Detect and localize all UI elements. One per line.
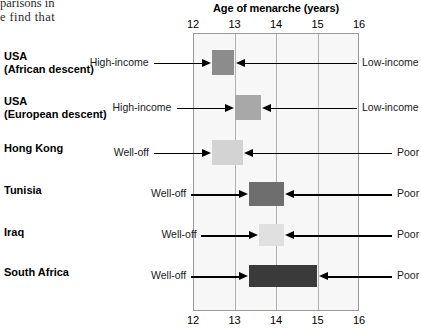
x-tick-12: 12	[181, 314, 205, 326]
chart-title: Age of menarche (years)	[193, 2, 359, 14]
gridline-15	[318, 34, 319, 310]
category-label-iraq: Iraq	[4, 226, 24, 239]
x-tick-15: 15	[306, 314, 330, 326]
right-arrow-5	[286, 231, 392, 240]
gridline-13	[235, 34, 236, 310]
right-annotation-3: Poor	[397, 146, 419, 158]
x-tick-14: 14	[264, 18, 288, 30]
left-arrow-4	[191, 190, 247, 199]
bar-usa-european-descent	[235, 95, 262, 120]
right-annotation-6: Poor	[397, 269, 419, 281]
bar-hong-kong	[212, 140, 243, 165]
x-axis-top: 1213141516	[0, 18, 421, 32]
right-arrow-3	[245, 149, 392, 158]
right-arrow-2	[263, 104, 357, 113]
x-tick-16: 16	[347, 314, 371, 326]
left-annotation-2: High-income	[113, 101, 172, 113]
left-arrow-5	[201, 231, 257, 240]
right-arrow-6	[320, 272, 393, 281]
left-arrow-6	[191, 272, 247, 281]
right-annotation-1: Low-income	[362, 56, 419, 68]
right-annotation-5: Poor	[397, 228, 419, 240]
menarche-age-chart: Age of menarche (years) 1213141516 12131…	[0, 0, 421, 335]
left-annotation-1: High-income	[90, 56, 149, 68]
x-tick-16: 16	[347, 18, 371, 30]
bar-usa-african-descent	[212, 50, 235, 75]
left-arrow-3	[154, 149, 210, 158]
right-arrow-4	[286, 190, 392, 199]
left-arrow-2	[177, 104, 233, 113]
x-tick-13: 13	[223, 18, 247, 30]
bar-tunisia	[249, 182, 284, 206]
left-annotation-5: Well-off	[161, 228, 196, 240]
x-tick-12: 12	[181, 18, 205, 30]
category-label-usa-european-descent: USA (European descent)	[4, 95, 107, 120]
category-label-tunisia: Tunisia	[4, 184, 42, 197]
category-label-south-africa: South Africa	[4, 266, 69, 279]
x-tick-13: 13	[223, 314, 247, 326]
right-arrow-1	[237, 59, 358, 68]
bar-iraq	[259, 224, 284, 246]
x-axis-bottom: 1213141516	[0, 314, 421, 328]
bar-south-africa	[249, 265, 317, 287]
right-annotation-2: Low-income	[362, 101, 419, 113]
left-annotation-3: Well-off	[114, 146, 149, 158]
x-tick-14: 14	[264, 314, 288, 326]
category-label-hong-kong: Hong Kong	[4, 142, 63, 155]
x-tick-15: 15	[306, 18, 330, 30]
left-annotation-6: Well-off	[151, 269, 186, 281]
left-annotation-4: Well-off	[151, 187, 186, 199]
left-arrow-1	[154, 59, 210, 68]
category-label-usa-african-descent: USA (African descent)	[4, 50, 94, 75]
right-annotation-4: Poor	[397, 187, 419, 199]
